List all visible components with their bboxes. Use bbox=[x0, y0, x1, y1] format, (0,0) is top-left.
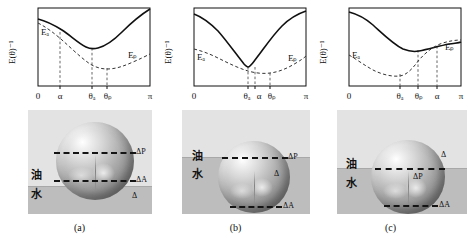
marker-delta-b: Δ bbox=[274, 170, 279, 178]
panel-b: E(θ)⁻¹ Eₐ Eₚ 0 θₐ α θₚ π bbox=[158, 0, 313, 245]
xtick-2: θₐ bbox=[89, 91, 96, 101]
dashline-delta-p-c bbox=[375, 168, 445, 170]
oil-label-c: 油 bbox=[346, 159, 357, 170]
xtick-3: θₚ bbox=[268, 91, 276, 101]
marker-delta-c: Δ bbox=[441, 151, 446, 159]
annotation-e-p: Eₚ bbox=[288, 53, 298, 63]
chart-b-svg: E(θ)⁻¹ Eₐ Eₚ 0 θₐ α θₚ π bbox=[158, 2, 313, 106]
chart-a-svg: E(θ)⁻¹ Eₐ Eₚ 0 α θₐ θₚ bbox=[2, 2, 157, 106]
dashline-delta-p-b bbox=[222, 157, 288, 159]
panel-a: E(θ)⁻¹ Eₐ Eₚ 0 α θₐ θₚ bbox=[2, 0, 157, 245]
sphere-seam-b bbox=[254, 171, 255, 204]
marker-delta-p-c: ΔP bbox=[413, 173, 423, 181]
photo-a: 油 水 ΔP ΔA Δ bbox=[28, 110, 152, 214]
xtick-2: α bbox=[257, 91, 262, 101]
dashline-delta-a-b bbox=[230, 206, 282, 208]
xtick-4: π bbox=[304, 91, 309, 101]
dashline-delta-a-c bbox=[384, 205, 438, 207]
xtick-2: θₚ bbox=[415, 91, 423, 101]
sphere-seam-a bbox=[95, 155, 96, 191]
water-label-b: 水 bbox=[192, 169, 203, 180]
chart-a: E(θ)⁻¹ Eₐ Eₚ 0 α θₐ θₚ bbox=[2, 2, 157, 106]
water-label-c: 水 bbox=[346, 178, 357, 189]
caption-c: (c) bbox=[313, 222, 468, 233]
sphere-seam-c bbox=[408, 171, 409, 205]
dashline-delta-a-a bbox=[54, 180, 136, 182]
xtick-1: θₐ bbox=[397, 91, 404, 101]
xtick-0: 0 bbox=[347, 91, 352, 101]
annotation-e-p: Eₚ bbox=[128, 50, 138, 60]
panel-c: E(θ)⁻¹ Eₐ Eₚ 0 θₐ θₚ α π bbox=[313, 0, 468, 245]
y-axis-label: E(θ)⁻¹ bbox=[163, 40, 173, 64]
photo-c: 油 水 Δ ΔP ΔA bbox=[337, 110, 467, 214]
xtick-0: 0 bbox=[192, 91, 197, 101]
marker-delta-a-c: ΔA bbox=[439, 201, 450, 209]
figure-root: E(θ)⁻¹ Eₐ Eₚ 0 α θₐ θₚ bbox=[0, 0, 470, 245]
marker-delta-a-b: ΔA bbox=[283, 202, 294, 210]
water-label-a: 水 bbox=[31, 189, 42, 200]
caption-a: (a) bbox=[2, 222, 157, 233]
particle-sphere-b bbox=[218, 141, 290, 213]
annotation-e-a: Eₐ bbox=[352, 50, 360, 60]
marker-delta-a-a: ΔA bbox=[136, 176, 147, 184]
dashline-delta-p-a bbox=[54, 152, 136, 154]
xtick-3: θₚ bbox=[104, 91, 112, 101]
annotation-e-a: Eₐ bbox=[41, 27, 49, 37]
xtick-4: π bbox=[148, 91, 153, 101]
xtick-4: π bbox=[459, 91, 464, 101]
oil-label-b: 油 bbox=[192, 151, 203, 162]
chart-c: E(θ)⁻¹ Eₐ Eₚ 0 θₐ θₚ α π bbox=[313, 2, 468, 106]
annotation-e-p: Eₚ bbox=[445, 42, 455, 52]
curve-e-a bbox=[38, 9, 150, 49]
curve-e-p bbox=[38, 23, 150, 69]
xtick-3: α bbox=[435, 91, 440, 101]
xtick-0: 0 bbox=[36, 91, 41, 101]
xtick-1: α bbox=[58, 91, 63, 101]
marker-delta-a: Δ bbox=[132, 192, 137, 200]
annotation-e-a: Eₐ bbox=[197, 52, 205, 62]
plot-frame bbox=[38, 8, 150, 86]
y-axis-label: E(θ)⁻¹ bbox=[318, 40, 328, 64]
photo-b: 油 水 ΔP Δ ΔA bbox=[182, 110, 310, 214]
particle-sphere-c bbox=[371, 140, 445, 214]
sphere-highlight2-b bbox=[230, 183, 254, 199]
caption-b: (b) bbox=[158, 222, 313, 233]
y-axis-label: E(θ)⁻¹ bbox=[7, 40, 17, 64]
chart-c-svg: E(θ)⁻¹ Eₐ Eₚ 0 θₐ θₚ α π bbox=[313, 2, 468, 106]
chart-b: E(θ)⁻¹ Eₐ Eₚ 0 θₐ α θₚ π bbox=[158, 2, 313, 106]
xtick-1: θₐ bbox=[244, 91, 251, 101]
particle-sphere-a bbox=[56, 122, 134, 200]
oil-label-a: 油 bbox=[31, 170, 42, 181]
marker-delta-p-a: ΔP bbox=[136, 148, 146, 156]
sphere-highlight2-c bbox=[383, 183, 408, 199]
marker-delta-p-b: ΔP bbox=[288, 153, 298, 161]
